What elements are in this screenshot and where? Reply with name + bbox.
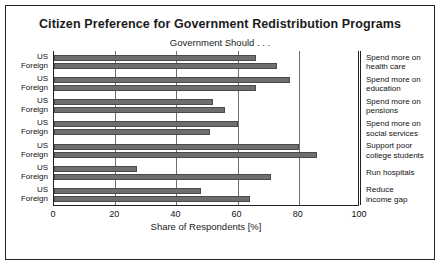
group-label-us-0: US bbox=[37, 52, 48, 61]
bar-foreign-2 bbox=[54, 107, 225, 113]
bar-foreign-5 bbox=[54, 174, 271, 180]
bar-foreign-6 bbox=[54, 196, 250, 202]
x-tick-80: 80 bbox=[293, 209, 303, 219]
bar-us-3 bbox=[54, 121, 238, 127]
chart-title: Citizen Preference for Government Redist… bbox=[6, 17, 434, 31]
category-label-3: Spend more on social services bbox=[366, 119, 421, 138]
plot-right-rule bbox=[358, 51, 359, 206]
bar-foreign-3 bbox=[54, 129, 210, 135]
category-label-5: Run hospitals bbox=[366, 168, 414, 178]
group-label-us-2: US bbox=[37, 96, 48, 105]
gridline-60 bbox=[238, 51, 239, 205]
gridline-40 bbox=[176, 51, 177, 205]
x-tick-0: 0 bbox=[50, 209, 55, 219]
chart-subtitle: Government Should . . . bbox=[6, 37, 434, 48]
x-axis-title: Share of Respondents [%] bbox=[53, 221, 359, 232]
category-label-4: Support poor college students bbox=[366, 141, 424, 160]
y-axis-group-labels: USForeignUSForeignUSForeignUSForeignUSFo… bbox=[6, 51, 51, 206]
group-label-foreign-2: Foreign bbox=[21, 105, 48, 114]
bar-foreign-0 bbox=[54, 63, 277, 69]
group-label-foreign-3: Foreign bbox=[21, 127, 48, 136]
gridline-100 bbox=[360, 51, 361, 205]
bar-foreign-1 bbox=[54, 85, 256, 91]
group-label-us-1: US bbox=[37, 74, 48, 83]
bar-us-1 bbox=[54, 77, 290, 83]
group-label-foreign-5: Foreign bbox=[21, 172, 48, 181]
group-label-us-3: US bbox=[37, 118, 48, 127]
bar-us-6 bbox=[54, 188, 201, 194]
category-label-1: Spend more on education bbox=[366, 75, 421, 94]
group-label-foreign-0: Foreign bbox=[21, 61, 48, 70]
plot-area bbox=[53, 51, 359, 206]
bar-us-4 bbox=[54, 144, 299, 150]
category-label-6: Reduce income gap bbox=[366, 185, 407, 204]
bar-us-2 bbox=[54, 99, 213, 105]
x-tick-60: 60 bbox=[232, 209, 242, 219]
x-tick-20: 20 bbox=[109, 209, 119, 219]
group-label-foreign-4: Foreign bbox=[21, 150, 48, 159]
group-label-foreign-1: Foreign bbox=[21, 83, 48, 92]
category-labels: Spend more on health careSpend more on e… bbox=[362, 51, 438, 206]
group-label-foreign-6: Foreign bbox=[21, 194, 48, 203]
bar-us-0 bbox=[54, 55, 256, 61]
bar-foreign-4 bbox=[54, 152, 317, 158]
group-label-us-5: US bbox=[37, 163, 48, 172]
gridline-80 bbox=[299, 51, 300, 205]
category-label-2: Spend more on pensions bbox=[366, 97, 421, 116]
x-tick-100: 100 bbox=[351, 209, 366, 219]
x-tick-40: 40 bbox=[170, 209, 180, 219]
gridline-20 bbox=[115, 51, 116, 205]
category-label-0: Spend more on health care bbox=[366, 53, 421, 72]
group-label-us-6: US bbox=[37, 185, 48, 194]
chart-frame: Citizen Preference for Government Redist… bbox=[5, 5, 435, 260]
bar-us-5 bbox=[54, 166, 137, 172]
group-label-us-4: US bbox=[37, 141, 48, 150]
